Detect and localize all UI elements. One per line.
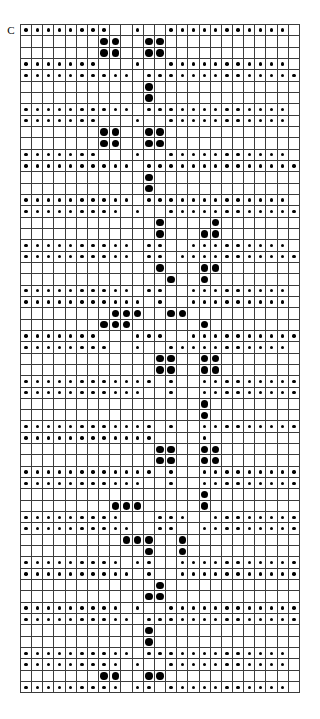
cell-empty[interactable] [132,183,143,194]
cell-small-dot[interactable] [266,659,277,670]
cell-large-dot[interactable] [110,308,121,319]
cell-large-dot[interactable] [154,444,165,455]
cell-small-dot[interactable] [87,602,98,613]
cell-small-dot[interactable] [244,568,255,579]
cell-empty[interactable] [32,138,43,149]
cell-empty[interactable] [277,455,288,466]
cell-small-dot[interactable] [43,512,54,523]
cell-empty[interactable] [76,546,87,557]
cell-empty[interactable] [132,194,143,205]
cell-empty[interactable] [154,183,165,194]
cell-empty[interactable] [32,274,43,285]
cell-small-dot[interactable] [99,421,110,432]
cell-small-dot[interactable] [277,568,288,579]
cell-small-dot[interactable] [221,251,232,262]
cell-empty[interactable] [177,228,188,239]
cell-small-dot[interactable] [54,240,65,251]
cell-small-dot[interactable] [99,557,110,568]
cell-empty[interactable] [110,274,121,285]
cell-empty[interactable] [99,410,110,421]
cell-empty[interactable] [244,353,255,364]
cell-empty[interactable] [121,659,132,670]
cell-small-dot[interactable] [87,296,98,307]
cell-empty[interactable] [166,546,177,557]
cell-empty[interactable] [154,557,165,568]
cell-empty[interactable] [121,682,132,693]
cell-small-dot[interactable] [121,160,132,171]
cell-small-dot[interactable] [199,251,210,262]
cell-small-dot[interactable] [65,285,76,296]
cell-small-dot[interactable] [166,614,177,625]
cell-empty[interactable] [288,81,299,92]
cell-empty[interactable] [121,410,132,421]
cell-empty[interactable] [32,444,43,455]
cell-empty[interactable] [121,546,132,557]
cell-empty[interactable] [288,398,299,409]
cell-small-dot[interactable] [188,206,199,217]
cell-empty[interactable] [188,126,199,137]
cell-small-dot[interactable] [99,104,110,115]
cell-small-dot[interactable] [166,160,177,171]
cell-small-dot[interactable] [255,104,266,115]
cell-empty[interactable] [244,500,255,511]
cell-empty[interactable] [32,580,43,591]
cell-small-dot[interactable] [199,648,210,659]
cell-empty[interactable] [177,138,188,149]
cell-empty[interactable] [54,92,65,103]
cell-large-dot[interactable] [99,36,110,47]
cell-small-dot[interactable] [232,149,243,160]
cell-small-dot[interactable] [221,58,232,69]
cell-empty[interactable] [166,251,177,262]
cell-small-dot[interactable] [54,115,65,126]
cell-empty[interactable] [54,138,65,149]
cell-empty[interactable] [21,262,32,273]
cell-empty[interactable] [87,546,98,557]
cell-empty[interactable] [288,274,299,285]
cell-empty[interactable] [221,262,232,273]
cell-small-dot[interactable] [199,659,210,670]
cell-small-dot[interactable] [232,387,243,398]
cell-empty[interactable] [266,364,277,375]
cell-small-dot[interactable] [210,342,221,353]
cell-small-dot[interactable] [288,557,299,568]
cell-empty[interactable] [99,625,110,636]
cell-small-dot[interactable] [210,58,221,69]
cell-small-dot[interactable] [54,512,65,523]
cell-small-dot[interactable] [266,194,277,205]
cell-empty[interactable] [65,319,76,330]
cell-empty[interactable] [121,557,132,568]
cell-small-dot[interactable] [76,330,87,341]
cell-empty[interactable] [21,308,32,319]
cell-empty[interactable] [21,580,32,591]
cell-empty[interactable] [244,591,255,602]
cell-empty[interactable] [54,81,65,92]
cell-empty[interactable] [54,410,65,421]
cell-empty[interactable] [132,228,143,239]
cell-small-dot[interactable] [76,421,87,432]
cell-empty[interactable] [32,353,43,364]
cell-empty[interactable] [266,92,277,103]
cell-small-dot[interactable] [232,342,243,353]
cell-empty[interactable] [177,319,188,330]
cell-empty[interactable] [221,489,232,500]
cell-small-dot[interactable] [54,659,65,670]
cell-small-dot[interactable] [244,251,255,262]
cell-empty[interactable] [266,36,277,47]
cell-small-dot[interactable] [32,70,43,81]
cell-empty[interactable] [143,478,154,489]
cell-large-dot[interactable] [177,546,188,557]
cell-empty[interactable] [199,126,210,137]
cell-small-dot[interactable] [121,376,132,387]
cell-small-dot[interactable] [43,251,54,262]
cell-empty[interactable] [76,172,87,183]
cell-empty[interactable] [244,580,255,591]
cell-empty[interactable] [32,670,43,681]
cell-empty[interactable] [110,625,121,636]
cell-empty[interactable] [188,262,199,273]
cell-small-dot[interactable] [177,251,188,262]
cell-empty[interactable] [266,138,277,149]
cell-empty[interactable] [232,591,243,602]
cell-empty[interactable] [154,478,165,489]
cell-small-dot[interactable] [210,160,221,171]
cell-empty[interactable] [99,183,110,194]
